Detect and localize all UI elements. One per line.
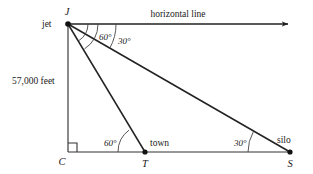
silo-label: silo <box>277 135 291 145</box>
angle-arc-town <box>118 130 129 152</box>
vertex-label-t: T <box>142 158 149 169</box>
horizontal-line-label: horizontal line <box>150 9 205 19</box>
vertex-dot-town <box>142 149 147 154</box>
vertex-label-s: S <box>287 158 293 169</box>
altitude-label: 57,000 feet <box>12 76 55 86</box>
vertex-label-c: C <box>58 156 66 167</box>
angle-label-jet-town: 60° <box>99 32 112 42</box>
town-label: town <box>150 138 169 148</box>
vertex-dot-jet <box>65 21 71 27</box>
jet-to-town-segment <box>68 24 145 152</box>
diagram-canvas: jet J horizontal line 57,000 feet 60° 30… <box>0 0 313 174</box>
geometry-diagram: jet J horizontal line 57,000 feet 60° 30… <box>0 0 313 174</box>
jet-to-silo-segment <box>68 24 290 152</box>
angle-arc-silo <box>248 132 253 152</box>
angle-label-town: 60° <box>104 138 117 148</box>
jet-label: jet <box>41 19 52 29</box>
angle-label-silo: 30° <box>233 138 247 148</box>
angle-label-jet-silo: 30° <box>117 36 131 46</box>
angle-arc-jet-town <box>85 24 99 49</box>
vertex-dot-silo <box>287 149 292 154</box>
vertex-label-j: J <box>65 6 71 17</box>
right-angle-marker-at-c <box>68 143 77 152</box>
